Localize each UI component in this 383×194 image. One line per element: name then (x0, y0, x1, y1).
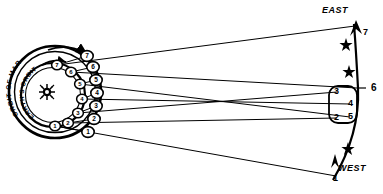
sky-position-5: 5 (348, 112, 353, 121)
star-icon (342, 65, 355, 78)
svg-text:4: 4 (95, 89, 99, 96)
svg-text:2: 2 (92, 115, 96, 122)
sky-position-1: 1 (333, 174, 338, 183)
sight-line-1 (55, 126, 336, 176)
sight-line-6 (71, 72, 357, 88)
sky-position-3: 3 (334, 87, 339, 96)
east-label: EAST (322, 6, 348, 15)
star-icon (341, 142, 354, 155)
svg-text:1: 1 (86, 128, 90, 135)
west-label: WEST (338, 164, 366, 173)
svg-text:6: 6 (91, 63, 95, 70)
sight-line-2 (68, 118, 337, 123)
sight-line-3 (78, 92, 337, 113)
sun-icon (39, 84, 55, 100)
star-icon (339, 38, 352, 51)
sky-position-7: 7 (363, 28, 368, 37)
diagram-svg: ORBIT OF MARS EARTH'S ORBIT 1 2 3 4 5 6 … (0, 0, 383, 194)
star-field (339, 38, 355, 155)
east-arrowhead (350, 20, 362, 36)
sight-line-5 (80, 84, 350, 117)
sky-position-6: 6 (371, 83, 377, 93)
diagram-canvas: ORBIT OF MARS EARTH'S ORBIT 1 2 3 4 5 6 … (0, 0, 383, 194)
svg-text:3: 3 (94, 102, 98, 109)
sky-position-4: 4 (348, 99, 353, 108)
sight-line-7 (57, 26, 355, 65)
svg-text:7: 7 (85, 52, 89, 59)
sky-position-2: 2 (334, 113, 339, 122)
sight-line-4 (82, 99, 350, 104)
svg-text:5: 5 (94, 76, 98, 83)
